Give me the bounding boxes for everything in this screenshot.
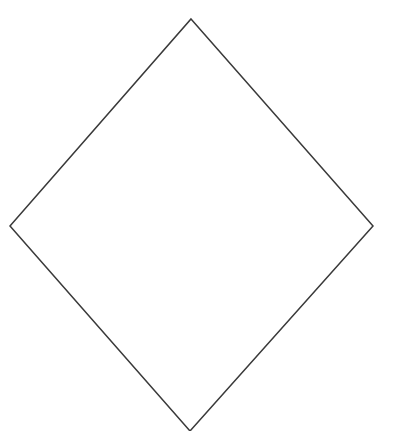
rhombus-shape [10, 19, 373, 431]
diagram-canvas [0, 0, 399, 431]
